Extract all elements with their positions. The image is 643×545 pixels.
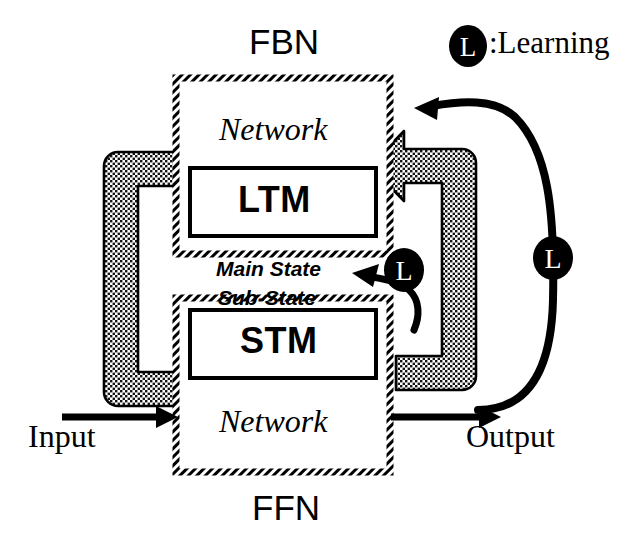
svg-text:L: L xyxy=(544,243,561,274)
ffn-network-label: Network xyxy=(219,405,327,437)
ltm-label: LTM xyxy=(238,182,311,218)
ffn-title: FFN xyxy=(252,490,320,525)
output-label: Output xyxy=(466,420,555,452)
input-label: Input xyxy=(28,420,96,452)
stm-label: STM xyxy=(240,323,318,359)
legend-learning-badge-icon: L xyxy=(449,25,487,67)
fbn-network-label: Network xyxy=(219,113,327,145)
inner-learning-badge: L xyxy=(384,248,424,292)
sub-state-label: Sub-State xyxy=(218,287,316,308)
svg-text:L: L xyxy=(395,255,412,286)
diagram-canvas: L L L FBN FFN :Learning Network LTM Main… xyxy=(0,0,643,545)
main-state-label: Main State xyxy=(216,258,321,279)
diagram-graphics: L L L xyxy=(0,0,643,545)
outer-learning-badge: L xyxy=(533,236,573,280)
legend-label: :Learning xyxy=(489,27,610,58)
fbn-title: FBN xyxy=(249,24,319,59)
svg-text:L: L xyxy=(460,32,477,62)
